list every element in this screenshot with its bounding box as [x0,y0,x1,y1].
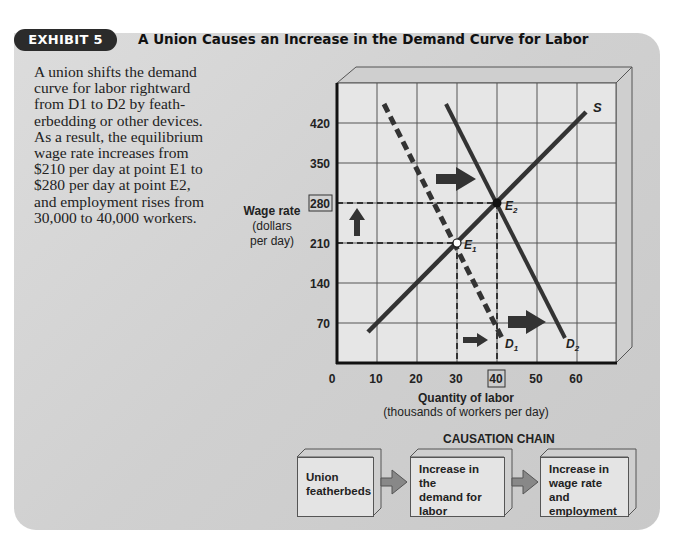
svg-text:140: 140 [310,277,330,291]
svg-text:S: S [593,100,602,115]
svg-text:0: 0 [329,372,336,386]
chain-step-1: Union featherbeds [297,457,374,517]
svg-text:70: 70 [317,317,331,331]
x-axis-label: Quantity of labor (thousands of workers … [356,391,576,419]
chain-step-2: Increase in the demand for labor [410,457,505,517]
svg-text:210: 210 [310,237,330,251]
chain-step-3: Increase in wage rate and employment [540,457,629,517]
svg-text:20: 20 [409,372,423,386]
svg-text:420: 420 [310,117,330,131]
svg-text:60: 60 [569,372,583,386]
y-axis-label: Wage rate (dollars per day) [232,204,312,249]
point-E2 [493,199,502,208]
svg-text:10: 10 [369,372,383,386]
svg-text:30: 30 [449,372,463,386]
causation-chain-title: CAUSATION CHAIN [443,432,555,446]
svg-text:40: 40 [489,372,503,386]
y-tick-labels: 420 350 280 210 140 70 [310,117,330,331]
svg-text:280: 280 [310,197,330,211]
point-E1 [453,239,461,247]
chain-arrow-icon [381,470,407,494]
svg-text:50: 50 [529,372,543,386]
chain-arrow-icon [512,470,538,494]
svg-text:350: 350 [310,157,330,171]
x-tick-labels: 0 10 20 30 40 50 60 [329,372,583,386]
